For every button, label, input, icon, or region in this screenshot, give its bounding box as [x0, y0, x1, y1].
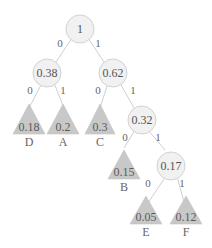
leaf-A: 0.2 A	[47, 104, 79, 149]
leaf-value: 0.15	[114, 165, 135, 179]
node-label: 0.32	[132, 113, 153, 127]
edge-label-032-0: 0	[122, 131, 128, 143]
node-label: 1	[77, 22, 83, 36]
huffman-tree-diagram: 0 1 0 1 0 1 0 1 0 1 1 0.38 0.62 0.32 0.1…	[0, 0, 212, 248]
leaf-value: 0.18	[19, 120, 40, 134]
edge-label-root-0: 0	[57, 37, 63, 49]
leaf-value: 0.05	[136, 210, 157, 224]
node-label: 0.17	[161, 159, 182, 173]
edge-label-032-1: 1	[155, 131, 161, 143]
node-label: 0.38	[37, 66, 58, 80]
node-0.38: 0.38	[33, 59, 61, 87]
edge-label-062-1: 1	[130, 84, 136, 96]
leaf-name: A	[59, 135, 68, 149]
edge-label-017-0: 0	[145, 177, 151, 189]
node-label: 0.62	[103, 66, 124, 80]
node-1: 1	[66, 15, 94, 43]
edge-label-038-1: 1	[60, 84, 66, 96]
leaf-value: 0.2	[56, 120, 71, 134]
leaf-C: 0.3 C	[85, 104, 115, 149]
edge-label-038-0: 0	[27, 84, 33, 96]
leaf-name: F	[183, 225, 190, 239]
edge-062-0	[100, 83, 108, 108]
node-0.62: 0.62	[99, 59, 127, 87]
node-0.32: 0.32	[128, 106, 156, 134]
leaf-F: 0.12 F	[170, 196, 202, 239]
leaf-name: D	[25, 135, 34, 149]
leaf-D: 0.18 D	[13, 104, 45, 149]
leaf-value: 0.3	[93, 120, 108, 134]
leaf-E: 0.05 E	[130, 196, 162, 239]
edge-label-017-1: 1	[179, 177, 185, 189]
leaf-value: 0.12	[176, 210, 197, 224]
edge-label-root-1: 1	[95, 37, 101, 49]
leaf-name: B	[120, 180, 128, 194]
edge-label-062-0: 0	[95, 84, 101, 96]
leaf-name: C	[96, 135, 104, 149]
node-0.17: 0.17	[157, 152, 185, 180]
leaf-name: E	[142, 225, 149, 239]
leaf-B: 0.15 B	[108, 150, 140, 194]
